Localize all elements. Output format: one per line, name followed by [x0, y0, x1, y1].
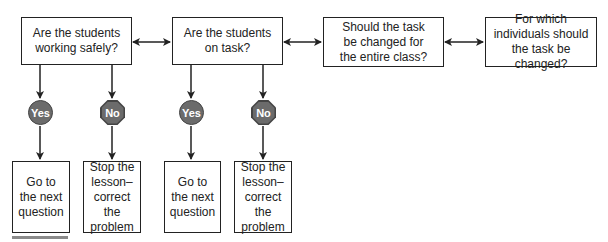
yes-badge-q2: Yes [179, 100, 204, 125]
outcome-box-go-next-q2: Go to the next question [164, 161, 221, 233]
question-box-on-task: Are the students on task? [172, 17, 283, 65]
outcome-box-stop-lesson-q1: Stop the lesson– correct the problem [83, 161, 141, 233]
question-box-change-for-individuals: For which individuals should the task be… [485, 17, 597, 67]
no-stop-badge-q2: No [251, 100, 276, 125]
outcome-box-go-next-q1: Go to the next question [12, 161, 70, 233]
question-box-working-safely: Are the students working safely? [21, 17, 132, 65]
no-label: No [105, 107, 120, 119]
no-stop-badge-q1: No [100, 100, 125, 125]
question-box-change-for-class: Should the task be changed for the entir… [323, 17, 444, 67]
yes-label: Yes [182, 107, 201, 119]
outcome-box-stop-lesson-q2: Stop the lesson– correct the problem [234, 161, 292, 233]
no-label: No [256, 107, 271, 119]
yes-badge-q1: Yes [28, 100, 53, 125]
caption-rule [12, 236, 68, 239]
yes-label: Yes [31, 107, 50, 119]
